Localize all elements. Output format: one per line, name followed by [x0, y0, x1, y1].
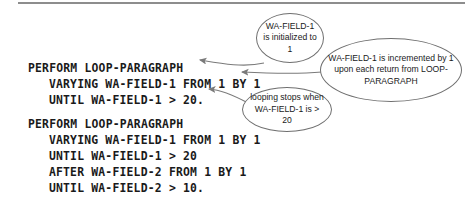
top-divider-rule [18, 2, 465, 4]
callout-bubble-initialized: WA-FIELD-1 is initialized to 1 [256, 13, 324, 63]
figure-canvas: PERFORM LOOP-PARAGRAPHVARYING WA-FIELD-1… [0, 0, 465, 206]
callout-text: looping stops when WA-FIELD-1 is > 20 [243, 92, 331, 127]
callout-text: WA-FIELD-1 is incremented by 1 upon each… [321, 53, 461, 88]
code-line: PERFORM LOOP-PARAGRAPH [28, 116, 261, 132]
callout-bubble-incremented: WA-FIELD-1 is incremented by 1 upon each… [320, 38, 462, 102]
code-line: VARYING WA-FIELD-1 FROM 1 BY 1 [28, 76, 261, 92]
code-line: UNTIL WA-FIELD-2 > 10. [28, 180, 261, 196]
code-block-first-perform: PERFORM LOOP-PARAGRAPHVARYING WA-FIELD-1… [28, 60, 261, 108]
code-line: VARYING WA-FIELD-1 FROM 1 BY 1 [28, 132, 261, 148]
code-block-second-perform: PERFORM LOOP-PARAGRAPHVARYING WA-FIELD-1… [28, 116, 261, 196]
code-line: PERFORM LOOP-PARAGRAPH [28, 60, 261, 76]
code-line: UNTIL WA-FIELD-1 > 20 [28, 148, 261, 164]
callout-bubble-looping-stops: looping stops when WA-FIELD-1 is > 20 [242, 87, 332, 132]
callout-text: WA-FIELD-1 is initialized to 1 [257, 21, 323, 56]
code-line: AFTER WA-FIELD-2 FROM 1 BY 1 [28, 164, 261, 180]
code-line: UNTIL WA-FIELD-1 > 20. [28, 92, 261, 108]
